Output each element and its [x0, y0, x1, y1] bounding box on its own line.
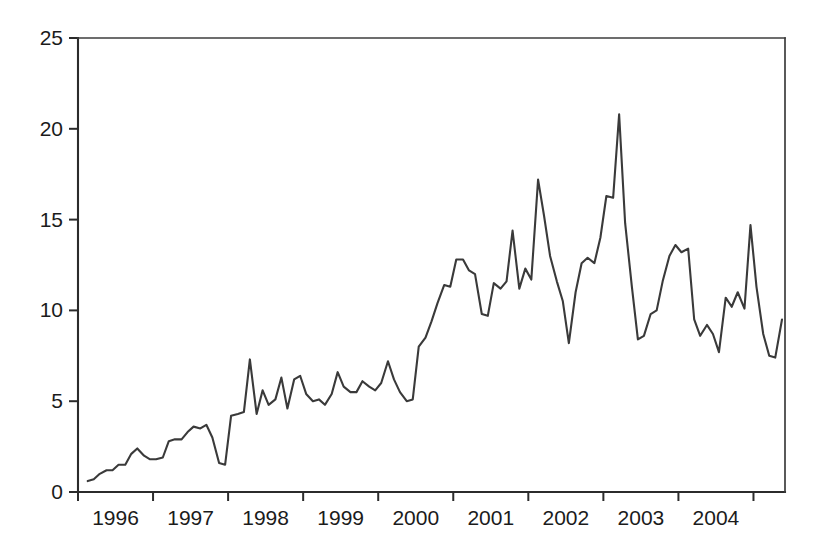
chart-figure: 0510152025 19961997199819992000200120022…: [0, 0, 821, 558]
x-tick-label: 2003: [618, 506, 665, 529]
x-tick-label: 1998: [242, 506, 289, 529]
x-tick-label: 2004: [693, 506, 740, 529]
x-tick-label: 1997: [167, 506, 214, 529]
y-tick-label: 15: [40, 208, 63, 231]
x-tick-label: 1996: [92, 506, 139, 529]
chart-background: [0, 0, 821, 558]
line-chart-svg: 0510152025 19961997199819992000200120022…: [0, 0, 821, 558]
x-tick-label: 2000: [392, 506, 439, 529]
y-tick-label: 20: [40, 117, 63, 140]
y-tick-label: 25: [40, 26, 63, 49]
y-tick-label: 10: [40, 298, 63, 321]
y-tick-label: 5: [51, 389, 63, 412]
y-tick-label: 0: [51, 480, 63, 503]
x-tick-label: 1999: [317, 506, 364, 529]
x-tick-label: 2002: [542, 506, 589, 529]
x-tick-label: 2001: [467, 506, 514, 529]
